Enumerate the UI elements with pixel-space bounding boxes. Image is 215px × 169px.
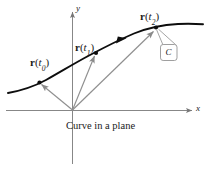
figure-caption: Curve in a plane [66, 121, 135, 132]
label-r-t0-sub: 0 [42, 64, 46, 73]
label-r-t2-close: ) [155, 10, 159, 22]
label-r-t1-close: ) [90, 41, 94, 53]
point-t0 [37, 80, 41, 84]
vector-r-t0 [42, 85, 73, 111]
y-axis-label: y [76, 4, 80, 13]
diagram-canvas [0, 0, 215, 169]
label-r-t2: r(t2) [140, 11, 159, 25]
label-r-t1-sub: 1 [87, 49, 91, 58]
point-t1 [94, 51, 98, 55]
vector-r-t1 [73, 56, 95, 110]
label-r-t0-close: ) [45, 56, 49, 68]
label-r-t2-sub: 2 [152, 18, 156, 27]
label-r-t1: r(t1) [75, 42, 94, 56]
callout-leader-right [159, 29, 177, 45]
vector-curve-figure: r(t0) r(t1) r(t2) C y x Curve in a plane [0, 0, 215, 169]
x-axis-label: x [196, 104, 200, 113]
curve-name-label: C [166, 48, 172, 57]
label-r-t0: r(t0) [30, 57, 49, 71]
